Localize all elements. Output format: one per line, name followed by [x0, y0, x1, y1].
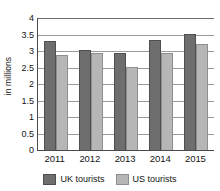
bar-group [108, 18, 143, 150]
bar-groups [38, 18, 214, 150]
x-axis-tick-label: 2011 [37, 152, 72, 168]
bar-group [38, 18, 73, 150]
y-axis-tick-label: 1 [29, 113, 34, 122]
y-axis-tick-label: 3 [29, 47, 34, 56]
y-axis-tick-label: 1.5 [21, 96, 34, 105]
bar-2011-us [56, 55, 68, 150]
legend-item-us-tourists: US tourists [116, 174, 177, 185]
y-axis-tick-label: 2 [29, 80, 34, 89]
plot-area [37, 18, 214, 151]
bar-2013-us [126, 67, 138, 150]
x-axis-tick-label: 2015 [178, 152, 213, 168]
bar-group [73, 18, 108, 150]
legend-swatch-icon [43, 174, 56, 185]
bar-2012-uk [79, 50, 91, 150]
bar-group [179, 18, 214, 150]
bar-2013-uk [114, 53, 126, 150]
bar-2015-us [196, 44, 208, 150]
bar-2012-us [91, 53, 103, 150]
legend-item-uk-tourists: UK tourists [43, 174, 104, 185]
bar-2015-uk [184, 34, 196, 150]
bar-2014-us [161, 53, 173, 150]
legend-label: UK tourists [60, 174, 104, 184]
y-axis-tick-label: 3.5 [21, 30, 34, 39]
y-axis-tick-label: 0.5 [21, 129, 34, 138]
y-axis-tick-label: 2.5 [21, 63, 34, 72]
x-axis-tick-label: 2013 [107, 152, 142, 168]
bar-chart-figure: in millions 00.511.522.533.54 2011201220… [0, 0, 220, 191]
chart-legend: UK touristsUS tourists [0, 170, 220, 188]
y-axis-tick-labels: 00.511.522.533.54 [14, 0, 36, 160]
bar-2014-uk [149, 40, 161, 150]
x-axis-tick-label: 2012 [72, 152, 107, 168]
bar-2011-uk [44, 41, 56, 150]
y-axis-tick-label: 4 [29, 14, 34, 23]
y-axis-tick-label: 0 [29, 146, 34, 155]
legend-swatch-icon [116, 174, 129, 185]
y-axis-title-text: in millions [3, 57, 13, 95]
bar-group [144, 18, 179, 150]
x-axis-tick-labels: 20112012201320142015 [37, 152, 213, 168]
legend-label: US tourists [133, 174, 177, 184]
x-axis-tick-label: 2014 [143, 152, 178, 168]
